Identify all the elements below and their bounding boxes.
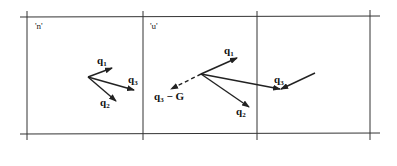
label-q3-minus-g: q3 − G [154, 90, 184, 104]
grid-bottom-line [20, 133, 380, 134]
vector-q1-n [88, 68, 112, 77]
vector-q1-u [201, 58, 237, 74]
label-q1-n: q1 [97, 54, 107, 68]
cell-label-u: 'u' [150, 21, 158, 31]
label-q2-u: q2 [236, 105, 246, 119]
grid-top-line [20, 16, 380, 17]
label-q3-n: q3 [128, 73, 138, 87]
label-q2-n: q2 [100, 96, 110, 110]
label-q3-cell3: q3 [274, 73, 284, 87]
cell-u-vectors [171, 58, 280, 107]
cell-label-n: 'n' [35, 21, 43, 31]
vector-q3-minus-g-dashed [171, 74, 201, 89]
vector-q3-cell3 [281, 73, 315, 89]
diagram-canvas: 'n' 'u' q1 q3 q2 q1 q2 q3 − G q3 [0, 0, 397, 166]
label-q1-u: q1 [224, 44, 234, 58]
